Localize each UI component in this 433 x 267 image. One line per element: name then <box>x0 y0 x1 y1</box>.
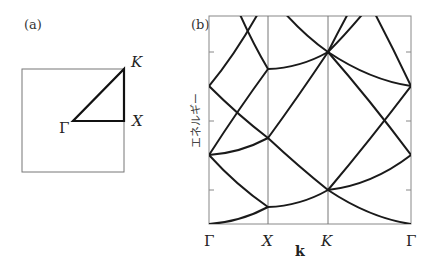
band-curves <box>209 10 411 224</box>
band-curve <box>268 138 328 190</box>
band-curve <box>328 52 411 86</box>
figure-canvas: (a) Γ X K (b) <box>0 0 433 267</box>
irreducible-wedge-triangle <box>73 69 124 121</box>
x-tick-x: X <box>261 232 274 250</box>
plot-frame <box>209 16 411 224</box>
band-curve <box>209 155 268 207</box>
panel-a-label: (a) <box>24 17 42 32</box>
y-axis-label: エネルギー <box>190 93 203 148</box>
x-tick-gamma-right: Γ <box>406 232 416 250</box>
panel-b-label: (b) <box>191 17 209 32</box>
y-ticks <box>209 52 411 190</box>
gamma-point-label: Γ <box>59 119 69 137</box>
band-curve <box>268 190 328 207</box>
band-curve <box>373 10 411 86</box>
band-curve <box>209 10 260 86</box>
x-tick-gamma-left: Γ <box>204 232 214 250</box>
band-curve <box>209 207 268 224</box>
x-point-label: X <box>131 112 144 130</box>
band-curve <box>328 190 411 224</box>
k-point-label: K <box>130 53 143 71</box>
panel-b: (b) <box>190 10 416 259</box>
x-axis-label: k <box>295 243 305 259</box>
x-tick-k: K <box>320 232 333 250</box>
panel-a: (a) Γ X K <box>22 17 144 172</box>
band-curve <box>328 155 411 190</box>
